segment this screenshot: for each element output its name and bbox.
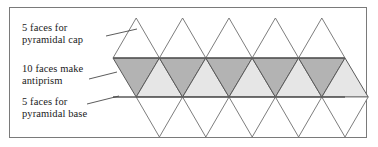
antiprism-faces-group — [113, 58, 368, 97]
pyramidal-base-face — [322, 97, 368, 137]
pyramidal-cap-face — [206, 18, 252, 58]
pyramidal-cap-face — [299, 18, 345, 58]
pyramidal-base-face — [275, 97, 321, 137]
leader-base — [87, 96, 119, 104]
label-pyramidal-cap: 5 faces for pyramidal cap — [22, 22, 83, 45]
pyramidal-cap-face — [252, 18, 298, 58]
pyramidal-base-face — [183, 97, 229, 137]
label-antiprism: 10 faces make antiprism — [22, 63, 83, 86]
figure-net-diagram: 5 faces for pyramidal cap 10 faces make … — [0, 0, 378, 147]
pyramidal-base-face — [136, 97, 182, 137]
leader-anti — [89, 72, 117, 79]
pyramidal-cap-faces-group — [113, 18, 345, 58]
pyramidal-cap-face — [113, 18, 159, 58]
pyramidal-base-face — [229, 97, 275, 137]
label-pyramidal-base: 5 faces for pyramidal base — [22, 96, 87, 119]
pyramidal-base-faces-group — [136, 97, 368, 137]
pyramidal-cap-face — [159, 18, 205, 58]
